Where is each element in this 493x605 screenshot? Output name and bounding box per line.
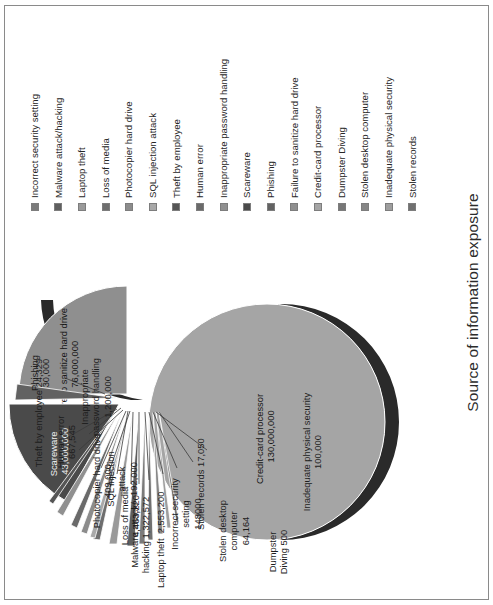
screenshot-root: Credit-card processor 130,000,000 Failur…: [0, 0, 493, 605]
legend-item-label: Inappropriate password handling: [219, 59, 229, 198]
callout-human-error: Human error 667,545: [55, 396, 78, 488]
legend-item-label: Human error: [195, 144, 205, 198]
legend-swatch-icon: [54, 203, 62, 211]
legend-item-label: Photocopier hard drive: [124, 101, 134, 198]
legend-swatch-icon: [338, 203, 346, 211]
legend-item-label: Scareware: [242, 152, 252, 198]
callout-inadequate-physical-security: Inadequate physical security 100,000: [301, 374, 324, 530]
chart-title: Source of information exposure: [464, 5, 482, 600]
pie-chart: Credit-card processor 130,000,000 Failur…: [5, 208, 465, 600]
legend-swatch-icon: [125, 203, 133, 211]
legend-item[interactable]: Laptop theft: [70, 11, 94, 211]
legend-swatch-icon: [149, 203, 157, 211]
legend-item[interactable]: Incorrect security setting: [23, 11, 47, 211]
callout-phishing: Phishing 30,000: [29, 338, 52, 408]
legend-swatch-icon: [290, 203, 298, 211]
legend-item[interactable]: Human error: [188, 11, 212, 211]
legend-item[interactable]: Theft by employee: [165, 11, 189, 211]
legend-item[interactable]: Stolen desktop computer: [353, 11, 377, 211]
legend-swatch-icon: [385, 203, 393, 211]
legend-item[interactable]: Stolen records: [401, 11, 425, 211]
legend-item[interactable]: Credit-card processor: [306, 11, 330, 211]
legend-item-label: Inadequate physical security: [384, 77, 394, 198]
legend-swatch-icon: [78, 203, 86, 211]
legend-swatch-icon: [361, 203, 369, 211]
legend-swatch-icon: [243, 203, 251, 211]
legend-swatch-icon: [314, 203, 322, 211]
legend-item[interactable]: Loss of media: [94, 11, 118, 211]
legend-item-label: Malware attack/hacking: [54, 98, 64, 198]
legend-item[interactable]: Malware attack/hacking: [47, 11, 71, 211]
legend-item-label: Credit-card processor: [313, 106, 323, 198]
legend-item-label: Phishing: [266, 161, 276, 198]
legend-item[interactable]: Phishing: [259, 11, 283, 211]
legend-item-label: Stolen desktop computer: [360, 92, 370, 198]
legend-item[interactable]: SQL injection attack: [141, 11, 165, 211]
legend-item[interactable]: Scareware: [235, 11, 259, 211]
legend-swatch-icon: [102, 203, 110, 211]
legend-item-label: Stolen records: [408, 136, 418, 198]
legend-item-label: Failure to sanitize hard drive: [290, 77, 300, 198]
legend-item-label: SQL injection attack: [148, 113, 158, 198]
legend-item[interactable]: Inadequate physical security: [377, 11, 401, 211]
legend-item[interactable]: Failure to sanitize hard drive: [283, 11, 307, 211]
legend-item[interactable]: Inappropriate password handling: [212, 11, 236, 211]
legend-swatch-icon: [172, 203, 180, 211]
legend-item-label: Theft by employee: [172, 119, 182, 198]
legend-swatch-icon: [31, 203, 39, 211]
callout-malware-attack-hacking: Malware attack/ hacking 1,322,572: [129, 480, 152, 590]
rotated-figure-canvas: Credit-card processor 130,000,000 Failur…: [5, 5, 488, 600]
callout-laptop-theft: Laptop theft 2,553,200: [155, 468, 166, 588]
legend-item[interactable]: Dumpster Diving: [330, 11, 354, 211]
callout-dumpster-diving: Dumpster Diving 500: [267, 510, 290, 594]
legend-swatch-icon: [267, 203, 275, 211]
legend-swatch-icon: [196, 203, 204, 211]
legend-item[interactable]: Photocopier hard drive: [117, 11, 141, 211]
legend-item-label: Loss of media: [101, 138, 111, 198]
legend-item-label: Incorrect security setting: [30, 94, 40, 198]
legend-swatch-icon: [408, 203, 416, 211]
callout-stolen-records: Stolen records 17,050: [195, 410, 206, 530]
legend-item-label: Dumpster Diving: [337, 127, 347, 198]
legend-item-label: Laptop theft: [77, 147, 87, 198]
legend: Incorrect security settingMalware attack…: [23, 11, 424, 211]
callout-stolen-desktop-computer: Stolen desktop computer 64,164: [217, 476, 251, 586]
legend-swatch-icon: [220, 203, 228, 211]
